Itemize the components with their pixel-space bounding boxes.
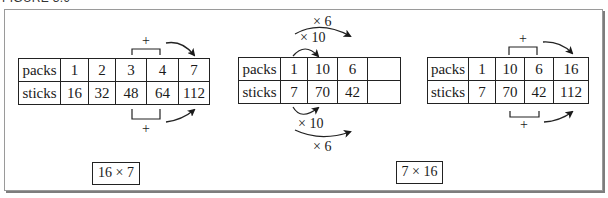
bracket-top-right [509, 47, 537, 55]
arrow-bottom-inner-middle [293, 107, 318, 114]
arrow-bottom-left [166, 110, 194, 122]
operator-plus-bottom-right: + [520, 118, 528, 132]
arrow-top-left [166, 43, 194, 56]
operator-plus-bottom-left: + [142, 122, 150, 136]
bracket-top-left [132, 49, 160, 55]
operator-times10-top-middle: × 10 [300, 31, 325, 45]
operator-plus-top-right: + [519, 32, 527, 46]
bracket-bottom-left [132, 109, 160, 119]
result-label-right: 7 × 16 [396, 161, 443, 184]
result-label-left: 16 × 7 [92, 162, 140, 185]
arrow-top-right [543, 42, 572, 53]
arrow-bottom-right [544, 112, 572, 122]
operator-times10-bottom-middle: × 10 [298, 117, 323, 131]
operator-times6-bottom-middle: × 6 [313, 140, 331, 154]
operator-times6-top-middle: × 6 [313, 15, 331, 29]
arrow-top-inner-middle [293, 49, 318, 56]
operator-plus-top-left: + [142, 34, 150, 48]
